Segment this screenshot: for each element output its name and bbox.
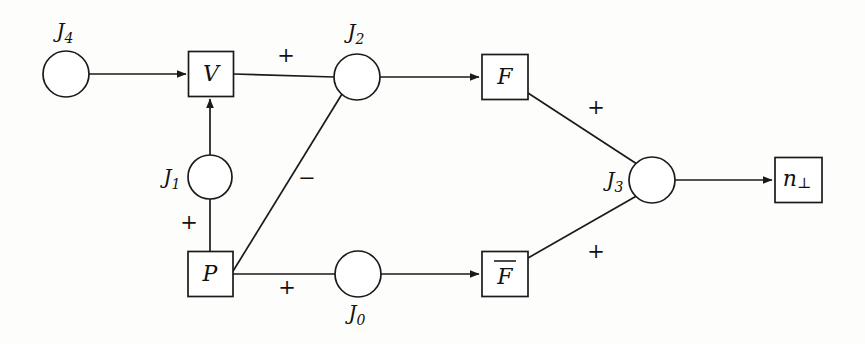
sign-plus-f-to-j3: + bbox=[587, 95, 605, 119]
node-j0-circle[interactable] bbox=[335, 251, 381, 297]
sign-plus-p-to-j0: + bbox=[278, 275, 296, 299]
node-fbar-label: F bbox=[496, 264, 513, 289]
sign-plus-v-to-j2: + bbox=[277, 43, 295, 67]
signal-flow-diagram: J4 V J2 F J1 J3 n⊥ P J0 bbox=[0, 0, 865, 344]
node-p-label: P bbox=[202, 261, 219, 286]
node-j0-label: J0 bbox=[345, 301, 366, 329]
sign-labels-group: + − + + + + bbox=[180, 43, 605, 299]
node-v-label: V bbox=[203, 61, 221, 86]
node-j4-label: J4 bbox=[53, 19, 74, 47]
diagram-canvas: J4 V J2 F J1 J3 n⊥ P J0 bbox=[0, 0, 865, 344]
edge-f-to-j3 bbox=[528, 93, 640, 166]
sign-minus-p-to-j2: − bbox=[298, 166, 316, 190]
node-j1-label: J1 bbox=[160, 165, 181, 193]
edge-fbar-to-j3 bbox=[528, 194, 640, 258]
node-j2-label: J2 bbox=[344, 20, 365, 48]
node-j3-circle[interactable] bbox=[629, 157, 675, 203]
sign-plus-fbar-to-j3: + bbox=[587, 239, 605, 263]
edge-v-to-j2 bbox=[234, 74, 335, 77]
node-j2-circle[interactable] bbox=[334, 54, 380, 100]
nodes-group: J4 V J2 F J1 J3 n⊥ P J0 bbox=[43, 19, 822, 329]
node-f-label: F bbox=[496, 64, 513, 89]
node-j4-circle[interactable] bbox=[43, 51, 89, 97]
edge-p-to-j2 bbox=[233, 94, 343, 272]
node-j3-label: J3 bbox=[603, 168, 624, 196]
sign-plus-p-to-j1: + bbox=[180, 210, 198, 234]
node-j1-circle[interactable] bbox=[188, 155, 232, 199]
